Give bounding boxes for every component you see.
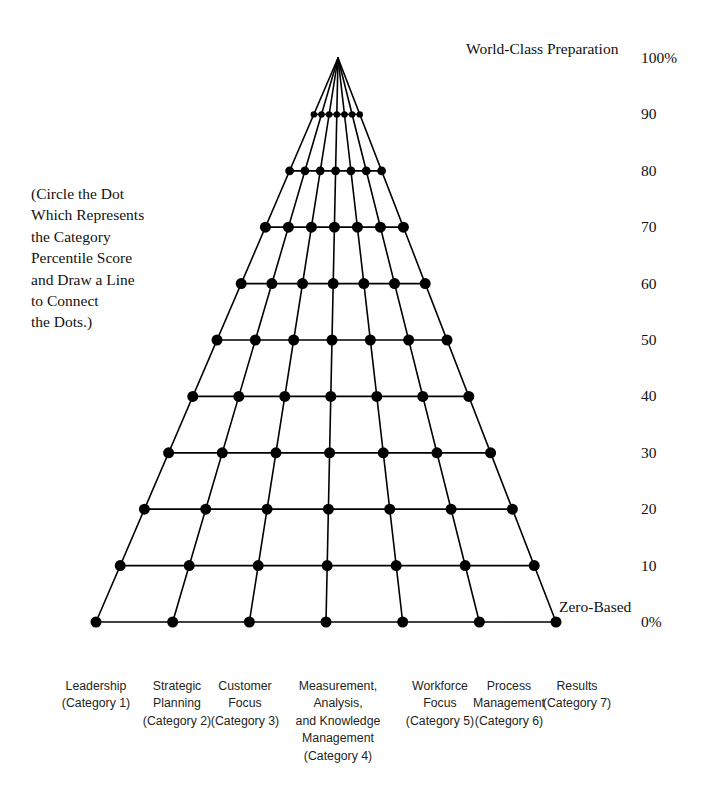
- score-dot-c6-p50[interactable]: [403, 335, 414, 346]
- score-dot-c4-p90[interactable]: [334, 111, 340, 117]
- category-label-4: Measurement,Analysis,and KnowledgeManage…: [281, 678, 395, 765]
- score-dot-c7-p10[interactable]: [529, 560, 540, 571]
- score-dot-c7-p50[interactable]: [442, 335, 453, 346]
- score-dot-c1-p20[interactable]: [139, 504, 150, 515]
- category-label-3: CustomerFocus(Category 3): [197, 678, 293, 730]
- category-6-line-3: (Category 6): [457, 713, 561, 730]
- score-dot-c3-p20[interactable]: [262, 504, 273, 515]
- instruction-line-6: to Connect: [31, 290, 191, 311]
- score-dot-c5-p90[interactable]: [341, 111, 347, 117]
- instruction-line-1: (Circle the Dot: [31, 183, 191, 204]
- score-dot-c2-p50[interactable]: [250, 335, 261, 346]
- instruction-note: (Circle the DotWhich Representsthe Categ…: [31, 183, 191, 333]
- score-dot-c4-p70[interactable]: [329, 222, 340, 233]
- instruction-line-4: Percentile Score: [31, 247, 191, 268]
- score-dot-c4-p30[interactable]: [324, 447, 335, 458]
- category-label-row: Leadership(Category 1)StrategicPlanning(…: [0, 668, 703, 778]
- score-dot-c4-p60[interactable]: [328, 278, 339, 289]
- score-dot-c7-p30[interactable]: [485, 447, 496, 458]
- score-dot-c2-p60[interactable]: [266, 278, 277, 289]
- score-dot-c1-p10[interactable]: [115, 560, 126, 571]
- score-dot-c7-p20[interactable]: [507, 504, 518, 515]
- score-dot-c1-p30[interactable]: [163, 447, 174, 458]
- score-dot-c4-p80[interactable]: [331, 166, 340, 175]
- score-dot-c1-p60[interactable]: [236, 278, 247, 289]
- score-dot-c5-p30[interactable]: [378, 447, 389, 458]
- score-dot-c1-p40[interactable]: [187, 391, 198, 402]
- y-tick-30: 30: [641, 445, 657, 461]
- score-dot-c7-p70[interactable]: [398, 222, 409, 233]
- score-dot-c6-p60[interactable]: [389, 278, 400, 289]
- score-dot-c3-p90[interactable]: [326, 111, 332, 117]
- score-dot-c5-p80[interactable]: [347, 166, 356, 175]
- y-tick-60: 60: [641, 276, 657, 292]
- score-dot-c6-p30[interactable]: [431, 447, 442, 458]
- score-dot-c2-p90[interactable]: [318, 111, 324, 117]
- score-dot-c2-p80[interactable]: [301, 166, 310, 175]
- score-dot-c6-p40[interactable]: [417, 391, 428, 402]
- score-dot-c3-p50[interactable]: [288, 335, 299, 346]
- score-dot-c6-p80[interactable]: [362, 166, 371, 175]
- y-tick-100: 100%: [641, 50, 677, 66]
- score-dot-c3-p10[interactable]: [253, 560, 264, 571]
- score-dot-c5-p60[interactable]: [358, 278, 369, 289]
- score-dot-c7-p0[interactable]: [551, 617, 562, 628]
- score-dot-c7-p40[interactable]: [463, 391, 474, 402]
- score-dot-c2-p10[interactable]: [184, 560, 195, 571]
- score-dot-c7-p80[interactable]: [377, 166, 386, 175]
- score-dot-c6-p20[interactable]: [446, 504, 457, 515]
- chart-root: World-Class Preparation Zero-Based 100%9…: [0, 0, 703, 787]
- score-dot-c4-p50[interactable]: [327, 335, 338, 346]
- score-dot-c1-p0[interactable]: [91, 617, 102, 628]
- instruction-line-2: Which Represents: [31, 204, 191, 225]
- score-dot-c2-p0[interactable]: [167, 617, 178, 628]
- score-dot-c1-p80[interactable]: [285, 166, 294, 175]
- y-tick-10: 10: [641, 558, 657, 574]
- instruction-line-7: the Dots.): [31, 311, 191, 332]
- score-dot-c6-p10[interactable]: [460, 560, 471, 571]
- y-tick-40: 40: [641, 388, 657, 404]
- score-dot-c3-p0[interactable]: [244, 617, 255, 628]
- score-dot-c7-p60[interactable]: [420, 278, 431, 289]
- score-dot-c3-p70[interactable]: [306, 222, 317, 233]
- score-dot-c1-p70[interactable]: [260, 222, 271, 233]
- score-dot-c4-p40[interactable]: [325, 391, 336, 402]
- score-dot-c4-p10[interactable]: [322, 560, 333, 571]
- category-4-line-1: Measurement,: [281, 678, 395, 695]
- score-dot-c6-p90[interactable]: [349, 111, 355, 117]
- y-tick-80: 80: [641, 163, 657, 179]
- score-dot-c6-p0[interactable]: [474, 617, 485, 628]
- score-dot-c3-p60[interactable]: [297, 278, 308, 289]
- y-tick-90: 90: [641, 106, 657, 122]
- score-dot-c2-p30[interactable]: [217, 447, 228, 458]
- score-dot-c4-p0[interactable]: [321, 617, 332, 628]
- score-dot-c5-p50[interactable]: [365, 335, 376, 346]
- score-dot-c5-p40[interactable]: [371, 391, 382, 402]
- score-dot-c3-p40[interactable]: [279, 391, 290, 402]
- score-dot-c1-p90[interactable]: [311, 111, 317, 117]
- score-dot-c5-p10[interactable]: [391, 560, 402, 571]
- score-dot-c5-p70[interactable]: [352, 222, 363, 233]
- score-dot-c2-p70[interactable]: [283, 222, 294, 233]
- category-4-line-3: and Knowledge: [281, 713, 395, 730]
- score-dot-c2-p20[interactable]: [200, 504, 211, 515]
- y-tick-20: 20: [641, 501, 657, 517]
- category-4-line-4: Management: [281, 730, 395, 747]
- category-label-7: Results(Category 7): [529, 678, 625, 713]
- category-3-line-3: (Category 3): [197, 713, 293, 730]
- score-dot-c6-p70[interactable]: [375, 222, 386, 233]
- category-3-line-2: Focus: [197, 695, 293, 712]
- score-dot-c7-p90[interactable]: [357, 111, 363, 117]
- score-dot-c5-p20[interactable]: [384, 504, 395, 515]
- category-4-line-5: (Category 4): [281, 748, 395, 765]
- category-7-line-2: (Category 7): [529, 695, 625, 712]
- score-dot-c1-p50[interactable]: [212, 335, 223, 346]
- score-dot-c4-p20[interactable]: [323, 504, 334, 515]
- y-tick-0: 0%: [641, 614, 662, 630]
- score-dot-c2-p40[interactable]: [233, 391, 244, 402]
- score-dot-c3-p80[interactable]: [316, 166, 325, 175]
- zero-based-label: Zero-Based: [559, 599, 631, 615]
- score-dot-c5-p0[interactable]: [397, 617, 408, 628]
- score-dot-c3-p30[interactable]: [270, 447, 281, 458]
- y-tick-70: 70: [641, 219, 657, 235]
